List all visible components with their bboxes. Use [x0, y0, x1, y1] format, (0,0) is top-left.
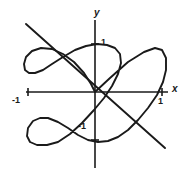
- x-axis-label: x: [172, 84, 178, 94]
- x-tick-label-positive: 1: [158, 97, 163, 106]
- y-tick-label-negative: -1: [78, 122, 86, 131]
- y-tick-label-positive: 1: [101, 38, 106, 47]
- x-tick-label-negative: -1: [12, 96, 20, 105]
- plot-canvas: [0, 0, 188, 175]
- plot-figure: y x 1 -1 1 -1: [0, 0, 188, 175]
- y-axis-label: y: [94, 8, 100, 18]
